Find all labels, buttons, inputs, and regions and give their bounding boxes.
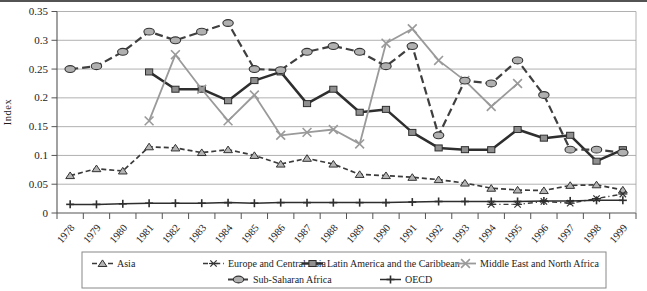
x-tick-label: 1988 <box>318 222 340 245</box>
x-tick-label: 1979 <box>81 222 103 245</box>
x-tick-label: 1991 <box>397 222 419 245</box>
x-tick-label: 1998 <box>581 222 603 245</box>
y-tick-label: 0.15 <box>29 120 49 132</box>
x-tick-label: 1985 <box>239 222 261 245</box>
marker-square <box>593 158 600 164</box>
marker-square <box>224 98 231 104</box>
legend-label: Latin America and the Caribbean <box>327 258 460 269</box>
x-tick-label: 1997 <box>555 222 577 245</box>
y-tick-label: 0.05 <box>29 178 49 190</box>
x-tick-label: 1984 <box>213 222 235 246</box>
marker-square <box>172 86 179 92</box>
legend-label: Middle East and North Africa <box>480 258 599 269</box>
series-europe-and-central-asia <box>487 191 628 208</box>
marker-square <box>540 135 547 141</box>
marker-oval <box>197 28 207 35</box>
marker-oval <box>233 276 243 283</box>
legend: AsiaEurope and Central AsiaLatin America… <box>82 252 606 288</box>
x-tick-label: 1980 <box>107 222 129 245</box>
marker-oval <box>539 92 549 99</box>
marker-oval <box>276 67 286 74</box>
y-tick-label: 0.25 <box>29 63 49 75</box>
marker-square <box>251 78 258 84</box>
legend-label: Asia <box>117 258 136 269</box>
y-tick-label: 0.2 <box>34 91 48 103</box>
marker-oval <box>486 80 496 87</box>
series-line <box>149 72 623 161</box>
figure: Index 00.050.10.150.20.250.30.3519781979… <box>0 0 647 291</box>
x-tick-label: 1986 <box>265 222 287 245</box>
series-line <box>491 194 623 204</box>
marker-oval <box>302 48 312 55</box>
marker-oval <box>249 66 259 73</box>
line-chart: Index 00.050.10.150.20.250.30.3519781979… <box>0 0 647 291</box>
marker-square <box>330 86 337 92</box>
marker-triangle <box>618 186 627 193</box>
series-asia <box>66 143 627 193</box>
marker-square <box>146 69 153 75</box>
marker-square <box>567 132 574 138</box>
marker-square <box>514 127 521 133</box>
marker-oval <box>91 63 101 70</box>
marker-oval <box>65 66 75 73</box>
marker-oval <box>460 77 470 84</box>
x-tick-label: 1982 <box>160 222 182 245</box>
x-tick-label: 1989 <box>344 222 366 245</box>
x-tick-label: 1994 <box>476 222 498 246</box>
marker-triangle <box>539 187 548 194</box>
marker-square <box>409 129 416 135</box>
plot-area: 00.050.10.150.20.250.30.3519781979198019… <box>29 5 636 245</box>
x-tick-label: 1978 <box>55 222 77 245</box>
marker-oval <box>144 28 154 35</box>
marker-triangle <box>224 146 233 153</box>
legend-label: Sub-Saharan Africa <box>253 274 332 285</box>
marker-oval <box>354 48 364 55</box>
x-tick-label: 1999 <box>607 222 629 245</box>
marker-oval <box>223 20 233 27</box>
marker-oval <box>433 132 443 139</box>
y-tick-label: 0.3 <box>34 34 48 46</box>
marker-square <box>435 145 442 151</box>
marker-square <box>488 147 495 153</box>
marker-square <box>382 106 389 112</box>
x-tick-label: 1987 <box>292 222 314 245</box>
y-tick-label: 0.1 <box>34 149 48 161</box>
series-line <box>70 23 623 153</box>
marker-triangle <box>92 165 101 172</box>
x-tick-label: 1983 <box>186 222 208 245</box>
marker-oval <box>170 37 180 44</box>
marker-oval <box>328 43 338 50</box>
x-tick-label: 1993 <box>450 222 472 245</box>
x-tick-label: 1992 <box>423 222 445 245</box>
marker-oval <box>118 48 128 55</box>
legend-label: OECD <box>405 274 432 285</box>
x-tick-label: 1990 <box>371 222 393 245</box>
marker-oval <box>591 146 601 153</box>
y-tick-label: 0 <box>43 207 49 219</box>
marker-oval <box>565 146 575 153</box>
marker-oval <box>512 57 522 64</box>
marker-square <box>461 147 468 153</box>
x-tick-label: 1996 <box>528 222 550 245</box>
marker-oval <box>618 149 628 156</box>
x-tick-label: 1995 <box>502 222 524 245</box>
marker-square <box>303 101 310 107</box>
x-tick-label: 1981 <box>134 222 156 245</box>
marker-square <box>309 261 316 267</box>
marker-oval <box>407 43 417 50</box>
y-tick-label: 0.35 <box>29 5 49 17</box>
marker-oval <box>381 63 391 70</box>
y-axis-title: Index <box>2 99 13 126</box>
marker-square <box>356 109 363 115</box>
